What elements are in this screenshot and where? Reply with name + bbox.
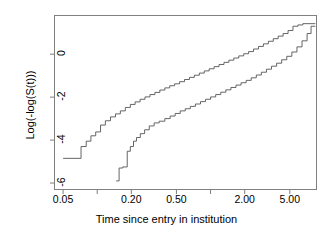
- figure-container: 0.050.200.502.005.00 0-2-4-6 Time since …: [0, 0, 333, 237]
- y-tick-label: -2: [55, 89, 67, 103]
- y-tick-label: -6: [55, 175, 67, 189]
- data-series-group: [63, 24, 315, 181]
- y-tick-label: -4: [55, 132, 67, 146]
- x-axis-title: Time since entry in institution: [0, 213, 333, 225]
- y-axis-title: Log(-log(S(t))): [24, 15, 36, 195]
- x-tick-label: 0.50: [166, 193, 186, 205]
- series-line-lower-curve: [116, 26, 315, 181]
- plot-box: [55, 16, 317, 190]
- plot-frame: [55, 16, 317, 190]
- x-tick-label: 5.00: [280, 193, 300, 205]
- series-line-upper-curve: [63, 24, 315, 159]
- x-tick-label: 0.20: [121, 193, 141, 205]
- x-tick-label: 2.00: [234, 193, 254, 205]
- y-axis-ticks: [50, 54, 55, 183]
- y-tick-label: 0: [55, 46, 67, 60]
- x-tick-label: 0.05: [53, 193, 73, 205]
